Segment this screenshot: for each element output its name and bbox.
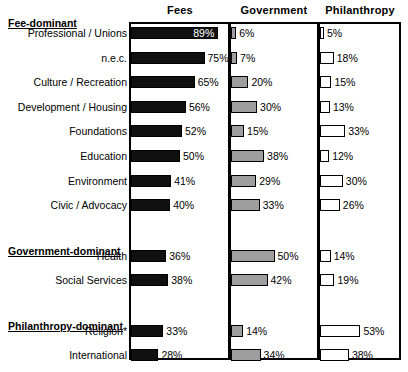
row-label: n.e.c. [0,52,127,64]
bar-philanthropy [320,125,345,137]
bar-philanthropy [320,274,334,286]
bar-government [231,101,257,113]
bar-value-fees: 75% [208,52,229,64]
bar-value-philanthropy: 12% [332,150,353,162]
row-label: Education [0,150,127,162]
bar-government [231,150,264,162]
bar-philanthropy [320,199,340,211]
bar-value-philanthropy: 33% [348,125,369,137]
panel-government [229,22,319,360]
bar-value-government: 50% [278,250,299,262]
row-label: Culture / Recreation [0,76,127,88]
bar-value-philanthropy: 53% [363,325,384,337]
column-header-fees: Fees [131,4,229,16]
bar-fees [131,101,186,113]
bar-value-fees: 50% [183,150,204,162]
bar-value-philanthropy: 30% [346,175,367,187]
bar-philanthropy [320,150,329,162]
bar-value-government: 15% [247,125,268,137]
column-header-philanthropy: Philanthropy [319,4,401,16]
bar-fees [131,125,182,137]
bar-government [231,125,244,137]
bar-value-government: 7% [240,52,255,64]
bar-fees [131,76,195,88]
bar-government [231,250,275,262]
row-label: Foundations [0,125,127,137]
bar-fees [131,325,163,337]
bar-value-fees: 65% [198,76,219,88]
bar-value-philanthropy: 13% [333,101,354,113]
bar-fees [131,250,166,262]
row-label: Civic / Advocacy [0,199,127,211]
bar-government [231,76,248,88]
bar-value-fees: 52% [185,125,206,137]
row-label: Health [0,250,127,262]
bar-government [231,349,261,361]
bar-value-government: 14% [246,325,267,337]
bar-value-government: 20% [251,76,272,88]
bar-fees [131,199,170,211]
bar-value-fees: 41% [174,175,195,187]
bar-value-fees: 36% [169,250,190,262]
bar-value-fees: 40% [173,199,194,211]
bar-philanthropy [320,52,334,64]
bar-value-philanthropy: 15% [334,76,355,88]
bar-value-philanthropy: 14% [334,250,355,262]
panel-philanthropy [318,22,401,360]
bar-value-fees: 28% [161,349,182,361]
bar-value-government: 29% [259,175,280,187]
bar-value-government: 38% [267,150,288,162]
revenue-mix-bar-chart: Fees Government Philanthropy Fee-dominan… [0,0,408,372]
bar-philanthropy [320,349,349,361]
bar-value-fees: 56% [189,101,210,113]
bar-government [231,325,243,337]
row-label: International [0,349,127,361]
bar-value-fees: 33% [166,325,187,337]
bar-fees [131,274,168,286]
bar-value-philanthropy: 19% [337,274,358,286]
bar-philanthropy [320,76,331,88]
bar-government [231,199,260,211]
bar-value-government: 30% [260,101,281,113]
bar-fees [131,349,158,361]
bar-value-philanthropy: 26% [343,199,364,211]
bar-value-fees: 38% [171,274,192,286]
bar-government [231,27,236,39]
bar-value-philanthropy: 5% [327,27,342,39]
panel-fees [129,22,230,360]
bar-value-government: 6% [239,27,254,39]
bar-fees [131,150,180,162]
bar-government [231,274,268,286]
bar-philanthropy [320,101,330,113]
bar-philanthropy [320,325,360,337]
bar-philanthropy [320,27,324,39]
bar-value-fees: 89% [188,27,214,39]
row-label: Environment [0,175,127,187]
bar-fees [131,52,205,64]
bar-government [231,52,237,64]
bar-value-government: 34% [264,349,285,361]
bar-value-government: 33% [263,199,284,211]
row-label: Social Services [0,274,127,286]
bar-value-philanthropy: 38% [352,349,373,361]
bar-value-government: 42% [271,274,292,286]
bar-fees [131,175,171,187]
bar-value-philanthropy: 18% [337,52,358,64]
row-label: Development / Housing [0,101,127,113]
row-label: Religion* [0,325,127,337]
column-header-government: Government [230,4,318,16]
row-label: Professional / Unions [0,27,127,39]
bar-philanthropy [320,250,331,262]
bar-philanthropy [320,175,343,187]
bar-government [231,175,256,187]
